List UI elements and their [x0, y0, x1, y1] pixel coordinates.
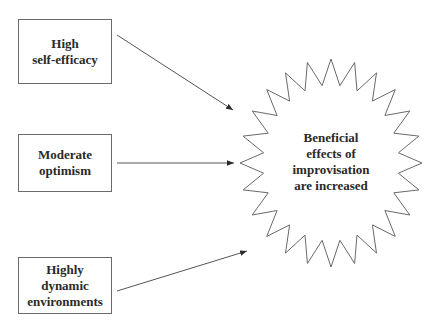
- factor-box-optimism: Moderate optimism: [18, 134, 112, 192]
- factor-label-line: Moderate: [38, 147, 92, 163]
- diagram: High self-efficacy Moderate optimism Hig…: [0, 0, 434, 330]
- factor-label-line: Highly: [46, 262, 84, 278]
- factor-label-line: dynamic: [41, 278, 89, 294]
- factor-label-line: self-efficacy: [32, 52, 98, 68]
- arrow-dynamic-environments-to-outcome: [117, 251, 247, 291]
- outcome-label: Beneficial effects of improvisation are …: [271, 130, 391, 194]
- arrow-self-efficacy-to-outcome: [117, 35, 233, 110]
- outcome-label-line: improvisation: [271, 162, 391, 178]
- factor-box-dynamic-environments: Highly dynamic environments: [18, 257, 112, 314]
- factor-label-line: optimism: [39, 163, 91, 179]
- outcome-label-line: effects of: [271, 146, 391, 162]
- outcome-label-line: are increased: [271, 178, 391, 194]
- factor-label-line: High: [51, 36, 78, 52]
- factor-box-self-efficacy: High self-efficacy: [18, 19, 112, 84]
- outcome-label-line: Beneficial: [271, 130, 391, 146]
- factor-label-line: environments: [27, 294, 103, 310]
